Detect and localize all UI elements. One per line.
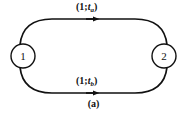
edge-top-label-subscript: a bbox=[90, 6, 94, 14]
edge-top-curve bbox=[20, 19, 167, 45]
figure-panel: 1 2 (1;ta) (1;tb) (a) bbox=[0, 0, 187, 118]
node-2-label: 2 bbox=[161, 50, 167, 62]
edge-bottom-label-close: ) bbox=[94, 75, 97, 86]
edge-top-label-close: ) bbox=[94, 1, 97, 12]
edge-bottom-label: (1;tb) bbox=[76, 76, 97, 86]
figure-caption: (a) bbox=[0, 98, 187, 109]
edge-bottom-label-subscript: b bbox=[90, 80, 94, 88]
edge-top-label: (1;ta) bbox=[76, 2, 97, 12]
node-1-label: 1 bbox=[20, 50, 26, 62]
